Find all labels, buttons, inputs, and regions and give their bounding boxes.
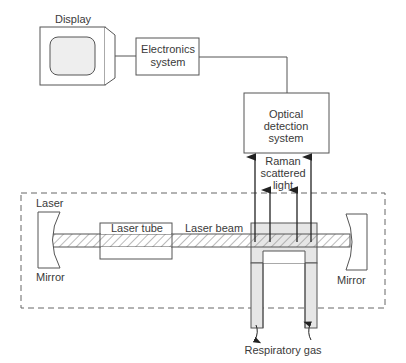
optical-detection-system-box: Optical detection system: [244, 93, 329, 153]
left-mirror-label-bottom: Mirror: [36, 271, 65, 283]
raman-label-2: scattered: [260, 167, 305, 179]
optical-label-3: system: [269, 132, 304, 144]
display-monitor: Display: [40, 13, 115, 85]
right-mirror: Mirror: [337, 214, 367, 286]
screen-icon: [50, 37, 95, 75]
electronics-label-2: system: [151, 56, 186, 68]
right-mirror-label: Mirror: [337, 274, 366, 286]
connector-line: [199, 57, 287, 93]
laser-beam-label: Laser beam: [185, 222, 243, 234]
laser-tube-label: Laser tube: [111, 222, 163, 234]
raman-spectrometer-diagram: Display Electronics system Optical detec…: [0, 0, 406, 363]
optical-label-1: Optical: [269, 108, 303, 120]
respiratory-gas-label: Respiratory gas: [244, 344, 322, 356]
raman-label-1: Raman: [265, 155, 300, 167]
optical-label-2: detection: [264, 120, 309, 132]
enclosure-boundary: [21, 193, 385, 308]
electronics-system-box: Electronics system: [136, 38, 199, 75]
gas-inlet-tube: [251, 263, 263, 328]
display-label: Display: [55, 13, 92, 25]
laser-beam: [50, 234, 350, 247]
left-mirror-label-top: Laser: [36, 197, 64, 209]
electronics-label-1: Electronics: [141, 43, 195, 55]
raman-label-3: light: [273, 179, 293, 191]
gas-outlet-tube: [305, 263, 317, 328]
